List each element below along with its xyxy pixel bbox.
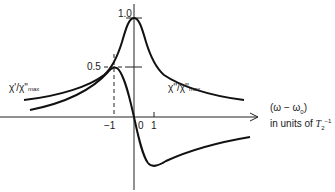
x-tick-label-0: 0: [138, 121, 144, 131]
x-tick-label-neg1: −1: [104, 121, 115, 131]
dispersion-label: χ'/χ''max: [9, 83, 39, 93]
absorption-label: χ''/χ''max: [168, 83, 200, 93]
y-tick-label-half: 0.5: [87, 62, 101, 72]
x-tick-label-1: 1: [151, 121, 157, 131]
x-axis-label-line1: (ω − ω0): [270, 103, 307, 115]
x-axis-label-line2: in units of T2−1: [270, 118, 331, 131]
lineshape-diagram: [0, 0, 335, 192]
y-tick-label-1: 1.0: [118, 9, 132, 19]
